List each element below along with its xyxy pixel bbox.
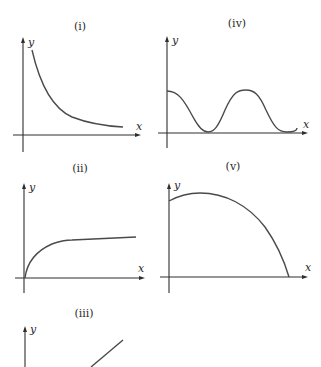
graph-v-x-arrow-icon — [302, 275, 308, 279]
graph-iii-line — [91, 340, 123, 367]
graph-v-y-label: y — [173, 179, 181, 192]
graph-iii-y-label: y — [29, 323, 37, 336]
graph-v-x-label: x — [305, 261, 312, 274]
graph-iii-y-arrow-icon — [23, 326, 27, 332]
graph-iii-title: (iii) — [74, 307, 93, 320]
graph-iv-x-arrow-icon — [302, 131, 308, 135]
graph-iv-x-label: x — [303, 118, 310, 131]
graph-i-y-arrow-icon — [21, 37, 25, 43]
graph-ii-curve — [25, 237, 136, 278]
graph-i-y-label: y — [27, 36, 35, 49]
graph-i-curve — [32, 50, 123, 127]
graph-ii-x-arrow-icon — [139, 276, 145, 280]
graph-v: (v) y x — [160, 160, 312, 293]
graph-i-title: (i) — [74, 20, 86, 33]
graph-v-title: (v) — [226, 160, 241, 173]
graph-ii-y-label: y — [28, 181, 36, 194]
graph-ii-y-arrow-icon — [22, 183, 26, 189]
graph-iv-y-arrow-icon — [165, 36, 169, 42]
graph-i-x-label: x — [136, 120, 143, 133]
graph-iv-title: (iv) — [228, 17, 246, 30]
graph-iv-curve — [167, 90, 297, 132]
graph-iv-y-label: y — [171, 34, 179, 47]
graphs-figure: (i) y x (iv) y x (ii) y x (v) y — [0, 0, 321, 367]
graph-ii: (ii) y x — [15, 162, 145, 293]
graph-i-x-arrow-icon — [135, 133, 141, 137]
graph-iv: (iv) y x — [158, 17, 310, 148]
graph-v-curve — [169, 193, 289, 277]
graph-v-y-arrow-icon — [167, 183, 171, 189]
graph-i: (i) y x — [13, 20, 143, 152]
graph-iii: (iii) y — [23, 307, 123, 367]
graph-ii-x-label: x — [138, 262, 145, 275]
graph-ii-title: (ii) — [72, 162, 88, 175]
